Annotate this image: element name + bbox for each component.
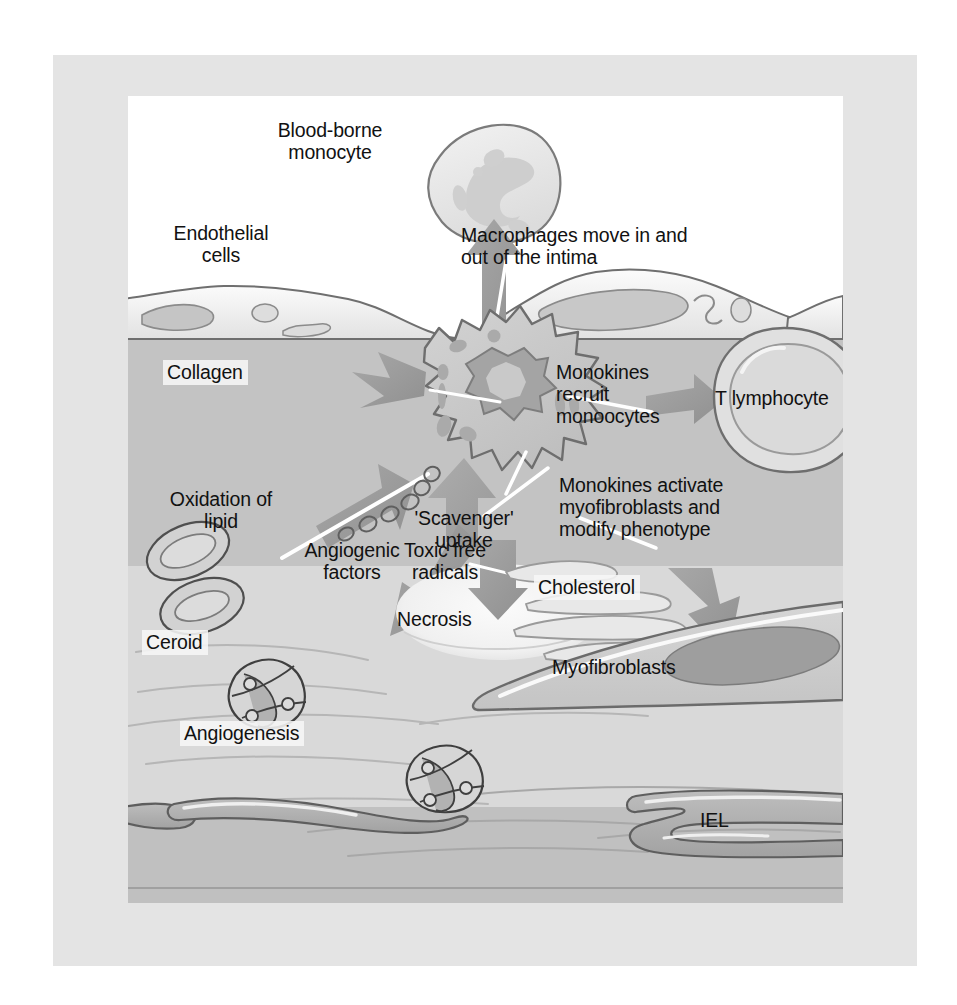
angiogenesis-capillary — [407, 746, 484, 813]
label-monokines-recruit: Monokines recruit monoocytes — [556, 361, 660, 428]
label-monokines-activate: Monokines activate myofibroblasts and mo… — [559, 474, 723, 541]
illustration-panel: Blood-borne monocyte Endothelial cells M… — [128, 96, 843, 903]
label-blood-borne-monocyte: Blood-borne monocyte — [250, 119, 410, 163]
label-cholesterol: Cholesterol — [534, 575, 640, 600]
label-endothelial-cells: Endothelial cells — [156, 222, 286, 266]
label-macrophages-move: Macrophages move in and out of the intim… — [461, 224, 687, 268]
label-t-lymphocyte: T lymphocyte — [715, 387, 829, 409]
label-iel: IEL — [700, 809, 729, 831]
label-oxidation-of-lipid: Oxidation of lipid — [146, 488, 296, 532]
label-angiogenic-factors: Angiogenic factors — [291, 539, 413, 583]
angiogenesis-capillary — [229, 660, 306, 729]
label-ceroid: Ceroid — [142, 630, 208, 655]
figure-root: Blood-borne monocyte Endothelial cells M… — [0, 0, 957, 1005]
label-necrosis: Necrosis — [397, 608, 472, 630]
internal-elastic-lamina — [128, 791, 843, 858]
label-collagen: Collagen — [163, 360, 248, 385]
label-angiogenesis: Angiogenesis — [180, 721, 304, 746]
label-myofibroblasts: Myofibroblasts — [552, 656, 676, 678]
